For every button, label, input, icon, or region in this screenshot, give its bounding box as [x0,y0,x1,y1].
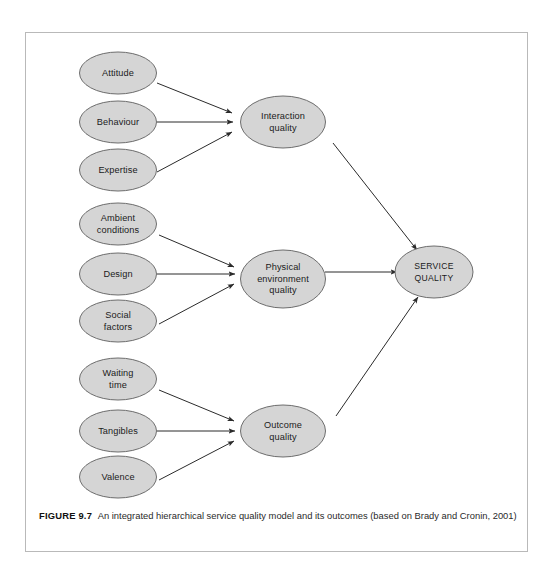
node-waiting-time-label-line-0: Waiting [103,368,134,378]
figure-caption-label: FIGURE 9.7 [39,510,98,521]
node-valence-label-line-0: Valence [101,472,134,482]
node-physical-environment-quality-label-line-1: environment [257,274,309,284]
edge-group-outcome [157,390,235,480]
node-physical-environment-quality-label-line-0: Physical [265,262,300,272]
node-service-quality[interactable]: SERVICE QUALITY [395,246,473,298]
node-service-quality-label-line-0: SERVICE [414,261,454,271]
node-waiting-time-label-line-1: time [109,380,127,390]
node-attitude-label-line-0: Attitude [102,68,134,78]
node-social-factors[interactable]: Social factors [80,300,157,342]
node-behaviour-label-line-0: Behaviour [97,117,139,127]
figure-caption: FIGURE 9.7 An integrated hierarchical se… [39,509,517,523]
node-interaction-quality-label-line-0: Interaction [261,111,305,121]
edge-expertise-to-interaction-quality [157,132,232,172]
edge-attitude-to-interaction-quality [157,83,232,113]
edge-ambient-conditions-to-physical-environment-quality [159,235,234,267]
edge-social-factors-to-physical-environment-quality [159,284,234,324]
node-ambient-conditions-label-line-1: conditions [97,225,140,235]
node-physical-environment-quality-label-line-2: quality [269,285,297,295]
node-interaction-quality[interactable]: Interaction quality [241,96,326,148]
node-expertise-label-line-0: Expertise [98,165,137,175]
node-tangibles[interactable]: Tangibles [80,410,157,452]
node-tangibles-label-line-0: Tangibles [98,426,138,436]
figure-frame: Attitude Behaviour Expertise Ambient con… [25,32,528,552]
edge-interaction-quality-to-service-quality [333,143,417,250]
node-service-quality-label-line-1: QUALITY [415,273,454,283]
node-social-factors-label-line-0: Social [105,310,131,320]
figure-caption-text: An integrated hierarchical service quali… [98,510,517,521]
node-attitude[interactable]: Attitude [80,52,157,94]
node-outcome-quality-label-line-1: quality [269,432,297,442]
node-interaction-quality-label-line-1: quality [269,123,297,133]
node-behaviour[interactable]: Behaviour [80,101,157,143]
edge-group-physical-environment [157,235,235,324]
edge-waiting-time-to-outcome-quality [159,390,234,421]
diagram-canvas: Attitude Behaviour Expertise Ambient con… [26,33,529,503]
node-waiting-time[interactable]: Waiting time [80,358,157,400]
node-design-label-line-0: Design [103,269,132,279]
node-social-factors-label-line-1: factors [104,322,133,332]
node-ambient-conditions-label-line-0: Ambient [101,213,136,223]
edge-group-interaction [157,83,233,172]
node-expertise[interactable]: Expertise [80,149,157,191]
node-service-quality-shape [395,246,473,298]
node-physical-environment-quality[interactable]: Physical environment quality [241,250,326,308]
node-outcome-quality-label-line-0: Outcome [264,420,302,430]
edge-outcome-quality-to-service-quality [336,297,418,416]
node-valence[interactable]: Valence [80,456,157,498]
edge-valence-to-outcome-quality [159,441,234,480]
node-ambient-conditions[interactable]: Ambient conditions [80,203,157,245]
node-design[interactable]: Design [80,253,157,295]
node-outcome-quality[interactable]: Outcome quality [241,405,326,457]
